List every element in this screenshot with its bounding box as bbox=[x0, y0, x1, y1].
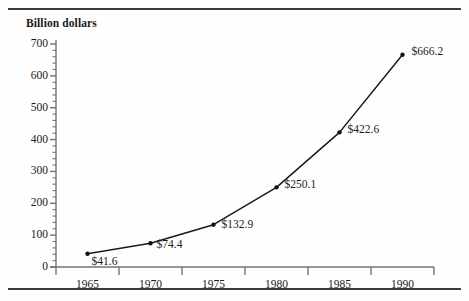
y-tick-label: 100 bbox=[14, 229, 48, 241]
x-tick-label: 1980 bbox=[247, 279, 307, 291]
data-point-marker bbox=[274, 185, 278, 189]
y-tick-label: 300 bbox=[14, 165, 48, 177]
x-tick-label: 1990 bbox=[373, 279, 433, 291]
y-tick-label: 500 bbox=[14, 102, 48, 114]
data-point-label: $422.6 bbox=[348, 124, 380, 136]
data-point-marker bbox=[148, 241, 152, 245]
data-point-marker bbox=[211, 222, 215, 226]
data-point-marker bbox=[85, 252, 89, 256]
data-point-label: $666.2 bbox=[412, 46, 444, 58]
data-point-marker bbox=[400, 53, 404, 57]
y-tick-label: 200 bbox=[14, 197, 48, 209]
data-point-label: $250.1 bbox=[285, 179, 317, 191]
axes-group bbox=[50, 40, 434, 275]
y-tick-label: 600 bbox=[14, 70, 48, 82]
data-point-label: $41.6 bbox=[92, 256, 118, 268]
chart-figure: Billion dollars 0100200300400500600700 1… bbox=[0, 0, 469, 301]
y-tick-label: 0 bbox=[14, 261, 48, 273]
y-tick-label: 700 bbox=[14, 38, 48, 50]
data-point-marker bbox=[337, 130, 341, 134]
x-tick-label: 1965 bbox=[58, 279, 118, 291]
x-tick-label: 1970 bbox=[121, 279, 181, 291]
y-tick-label: 400 bbox=[14, 134, 48, 146]
x-tick-label: 1975 bbox=[184, 279, 244, 291]
x-tick-label: 1985 bbox=[310, 279, 370, 291]
data-point-label: $74.4 bbox=[157, 239, 183, 251]
plot-area bbox=[0, 0, 469, 301]
data-point-label: $132.9 bbox=[222, 219, 254, 231]
